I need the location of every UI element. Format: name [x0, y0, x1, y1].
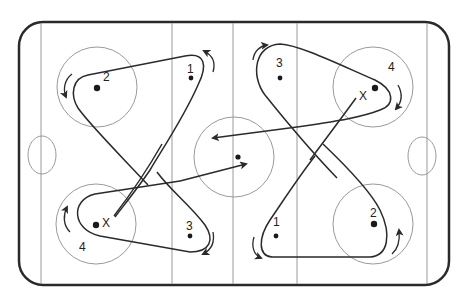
- hockey-rink-diagram: 2 1 3 4 X 4 X 3 1 2: [0, 0, 467, 304]
- player-dot-top-left-2: [94, 85, 100, 91]
- label-top-right-4: 4: [388, 60, 395, 74]
- player-dot-top-right-3: [278, 76, 283, 81]
- label-bottom-left-3: 3: [186, 219, 193, 233]
- player-dot-top-right-4: [372, 85, 378, 91]
- label-bottom-left-4: 4: [79, 240, 86, 254]
- label-x-bottom-left: X: [102, 216, 110, 230]
- label-bottom-right-2: 2: [370, 206, 377, 220]
- label-top-left-1: 1: [187, 62, 194, 76]
- player-dot-bottom-left-4: [93, 222, 99, 228]
- label-x-top-right: X: [359, 89, 367, 103]
- puck-dot-center: [235, 154, 240, 159]
- player-dot-bottom-right-2: [371, 221, 377, 227]
- player-dot-bottom-left-3: [188, 234, 193, 239]
- player-dot-top-left-1: [189, 76, 194, 81]
- label-bottom-right-1: 1: [273, 215, 280, 229]
- label-top-right-3: 3: [276, 56, 283, 70]
- player-dot-bottom-right-1: [274, 234, 279, 239]
- label-top-left-2: 2: [103, 70, 110, 84]
